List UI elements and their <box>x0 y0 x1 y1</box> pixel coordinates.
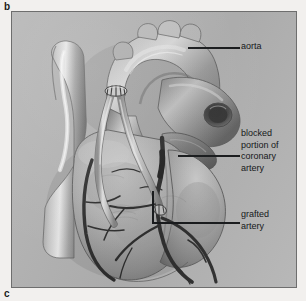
label-grafted-artery: grafted artery <box>241 209 269 232</box>
label-blocked-portion-of-coronary-artery: blocked portion of coronary artery <box>241 128 279 174</box>
panel-label-c: c <box>4 289 10 299</box>
label-aorta: aorta <box>241 41 262 53</box>
panel-label-b: b <box>4 2 10 12</box>
pulmonary-lumen <box>204 103 232 127</box>
figure-root: b <box>0 0 306 301</box>
anastomosis-proximal <box>105 86 127 96</box>
blocked-segment <box>160 152 162 176</box>
